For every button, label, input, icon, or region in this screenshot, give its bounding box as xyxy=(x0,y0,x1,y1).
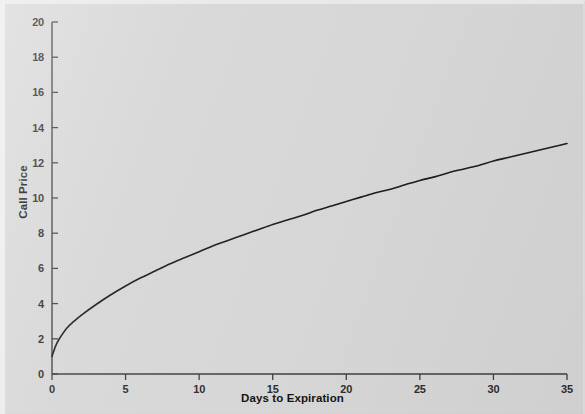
y-tick-label: 2 xyxy=(18,333,44,345)
x-axis-title: Days to Expiration xyxy=(0,392,585,404)
y-axis-title: Call Price xyxy=(17,147,29,237)
y-tick-label: 20 xyxy=(18,16,44,28)
y-tick-label: 18 xyxy=(18,51,44,63)
axis-spines xyxy=(52,22,567,374)
y-tick-label: 6 xyxy=(18,262,44,274)
y-tick-label: 4 xyxy=(18,298,44,310)
plot-area xyxy=(0,0,585,414)
x-axis-ticks xyxy=(52,374,567,380)
chart-figure: 02468101214161820 05101520253035 Days to… xyxy=(0,0,585,414)
y-tick-label: 14 xyxy=(18,122,44,134)
y-tick-label: 16 xyxy=(18,86,44,98)
call-price-line xyxy=(52,143,567,356)
y-tick-label: 0 xyxy=(18,368,44,380)
y-axis-ticks xyxy=(52,22,58,374)
